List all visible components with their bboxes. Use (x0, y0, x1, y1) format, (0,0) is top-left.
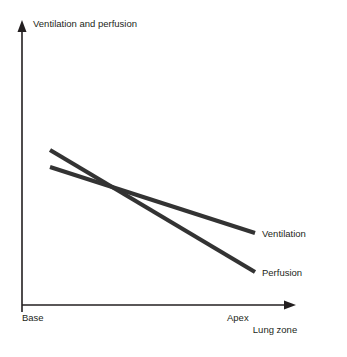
series-line-perfusion (50, 150, 255, 272)
series-label-perfusion: Perfusion (262, 267, 302, 278)
y-axis-arrow-icon (18, 20, 27, 32)
series-label-ventilation: Ventilation (262, 228, 306, 239)
series-line-ventilation (50, 167, 255, 233)
x-tick-label-base: Base (22, 312, 44, 323)
chart-canvas: Ventilation and perfusion Lung zone Base… (0, 0, 347, 357)
ventilation-perfusion-chart: Ventilation and perfusion Lung zone Base… (0, 0, 347, 357)
y-axis-title: Ventilation and perfusion (33, 18, 137, 29)
x-axis-title: Lung zone (253, 324, 297, 335)
x-tick-label-apex: Apex (227, 312, 249, 323)
x-axis-arrow-icon (284, 301, 296, 310)
